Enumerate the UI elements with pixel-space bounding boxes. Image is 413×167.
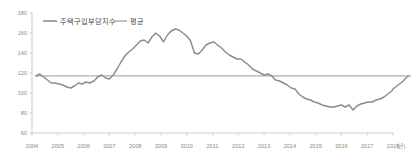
chart-plot-area: 1801601401201008060 20042005200620072008…	[0, 0, 413, 167]
y-tick-label: 140	[18, 50, 27, 56]
y-tick-label: 180	[18, 10, 27, 16]
series-line-group	[36, 29, 409, 110]
y-tick-label: 160	[18, 30, 27, 36]
x-tick-label: 2016	[335, 143, 347, 149]
housing-burden-index-chart: 1801601401201008060 20042005200620072008…	[0, 0, 413, 167]
x-tick-label: 2006	[77, 143, 89, 149]
x-tick-labels: 2004200520062007200820092010201120122013…	[26, 133, 399, 149]
x-tick-label: 2011	[206, 143, 218, 149]
x-tick-label: 2007	[103, 143, 115, 149]
x-tick-label: 2005	[52, 143, 64, 149]
x-tick-label: 2004	[26, 143, 38, 149]
x-tick-label: 2009	[155, 143, 167, 149]
x-tick-label: 2013	[258, 143, 270, 149]
x-tick-label: 2014	[284, 143, 296, 149]
legend-label-average: 평균	[130, 17, 144, 26]
legend-label-series: 주택구입부담지수	[60, 17, 116, 26]
x-tick-label: 2010	[180, 143, 192, 149]
y-tick-label: 80	[21, 110, 27, 116]
y-tick-label: 100	[18, 90, 27, 96]
x-tick-label: 2008	[129, 143, 141, 149]
x-tick-label: 2017	[361, 143, 373, 149]
y-tick-labels: 1801601401201008060	[18, 10, 32, 136]
housing-burden-index-line	[36, 29, 409, 110]
legend: 주택구입부담지수 평균	[43, 17, 144, 26]
x-axis-unit-label: (년)	[397, 142, 406, 149]
x-tick-label: 2012	[232, 143, 244, 149]
x-tick-label: 2015	[309, 143, 321, 149]
y-tick-label: 120	[18, 70, 27, 76]
y-tick-label: 60	[21, 130, 27, 136]
